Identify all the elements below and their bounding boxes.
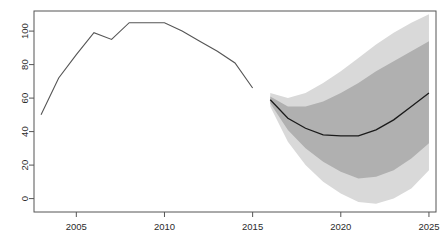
y-tick-label: 60: [20, 93, 31, 104]
y-tick-label: 20: [20, 160, 31, 171]
chart-canvas: 20052010201520202025 020406080100: [0, 0, 447, 249]
x-tick-label: 2005: [66, 221, 87, 232]
x-tick-label: 2025: [418, 221, 439, 232]
x-tick-label: 2020: [330, 221, 351, 232]
y-axis-ticks: [29, 31, 34, 199]
x-tick-label: 2010: [154, 221, 175, 232]
y-tick-label: 0: [20, 196, 31, 201]
x-axis-tick-labels: 20052010201520202025: [66, 221, 440, 232]
y-tick-label: 100: [20, 23, 31, 39]
x-tick-label: 2015: [242, 221, 263, 232]
history-line: [41, 23, 253, 115]
inner-interval-band: [270, 41, 429, 178]
y-tick-label: 40: [20, 126, 31, 137]
y-tick-label: 80: [20, 59, 31, 70]
history-group: [41, 23, 253, 115]
fan-chart: 20052010201520202025 020406080100: [0, 0, 447, 249]
band-inner-group: [270, 41, 429, 178]
y-axis-tick-labels: 020406080100: [20, 23, 31, 201]
x-axis-ticks: [76, 212, 429, 217]
